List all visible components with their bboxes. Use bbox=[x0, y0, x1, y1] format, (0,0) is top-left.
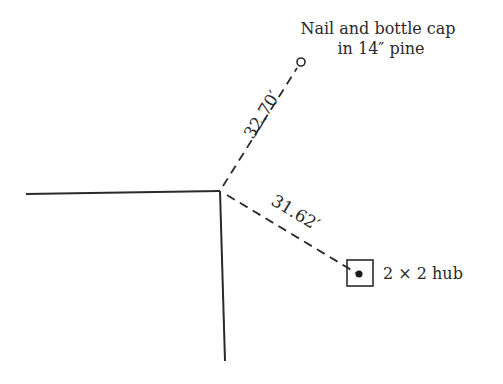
nail-label-line2: in 14″ pine bbox=[337, 39, 424, 58]
nail-label-line1: Nail and bottle cap bbox=[300, 19, 455, 38]
distance-label-nail: 32.70′ bbox=[239, 87, 284, 142]
wall-horizontal bbox=[26, 191, 220, 194]
survey-diagram: 32.70′ 31.62′ Nail and bottle cap in 14″… bbox=[0, 0, 503, 384]
nail-marker-icon bbox=[297, 58, 305, 66]
wall-vertical bbox=[220, 191, 225, 361]
distance-label-hub: 31.62′ bbox=[268, 190, 323, 234]
hub-point-icon bbox=[356, 271, 363, 278]
hub-label: 2 × 2 hub bbox=[383, 264, 463, 283]
